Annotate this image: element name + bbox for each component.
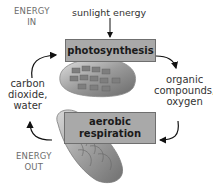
left-label-line3: water	[8, 100, 47, 111]
energy-in-label: ENERGY IN	[14, 6, 50, 28]
respiration-label-line1: aerobic	[79, 116, 141, 128]
energy-out-line2: OUT	[16, 162, 52, 173]
right-label-line1: organic	[154, 74, 213, 85]
arrow-to-carbon-dioxide	[30, 122, 52, 140]
right-label-line2: compounds,	[154, 85, 213, 96]
organic-compounds-oxygen-label: organic compounds, oxygen	[154, 74, 213, 107]
right-label-line3: oxygen	[154, 96, 213, 107]
arrow-to-respiration	[160, 121, 178, 140]
photosynthesis-box: photosynthesis	[65, 39, 156, 62]
photosynthesis-label: photosynthesis	[67, 45, 153, 57]
chloroplast-icon	[60, 59, 136, 97]
energy-out-line1: ENERGY	[16, 151, 52, 162]
carbon-dioxide-water-label: carbon dioxide, water	[8, 78, 47, 111]
sunlight-energy-label: sunlight energy	[72, 7, 146, 18]
energy-out-label: ENERGY OUT	[16, 151, 52, 173]
left-label-line2: dioxide,	[8, 89, 47, 100]
respiration-label-line2: respiration	[79, 128, 141, 140]
left-label-line1: carbon	[8, 78, 47, 89]
energy-in-line2: IN	[14, 17, 50, 28]
aerobic-respiration-box: aerobic respiration	[64, 112, 156, 144]
arrow-to-organic-compounds	[156, 56, 176, 68]
arrow-to-photosynthesis	[32, 55, 56, 78]
energy-in-line1: ENERGY	[14, 6, 50, 17]
